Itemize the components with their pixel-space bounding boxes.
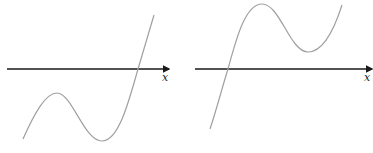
- x-axis-label-right: x: [364, 71, 371, 84]
- right-panel: x: [195, 4, 372, 129]
- cubic-curve-left: [23, 15, 154, 141]
- left-panel: x: [7, 15, 169, 141]
- x-axis-label-left: x: [162, 71, 169, 84]
- cubic-curve-right: [210, 4, 342, 129]
- diagram-canvas: x x: [0, 0, 373, 153]
